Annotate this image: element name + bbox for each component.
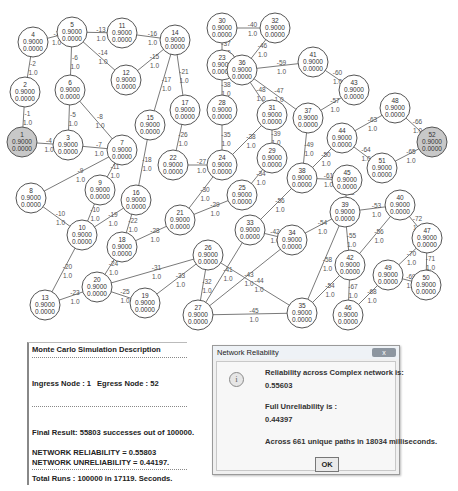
graph-node-30[interactable]: 300.90000.0000	[207, 13, 237, 43]
graph-node-44[interactable]: 440.90000.0000	[327, 123, 357, 153]
graph-node-2[interactable]: 20.90000.0000	[10, 77, 40, 107]
node-sublabel: 0.0000	[58, 148, 78, 155]
edge-id-label: -53	[372, 202, 382, 209]
graph-node-1[interactable]: 10.90000.0000	[7, 127, 37, 157]
graph-node-11[interactable]: 110.90000.0000	[107, 18, 137, 48]
node-sublabel: 0.0000	[344, 93, 364, 100]
dialog-titlebar[interactable]: Network Reliability x	[213, 346, 399, 359]
graph-node-33[interactable]: 330.90000.0000	[235, 215, 265, 245]
graph-node-29[interactable]: 290.90000.0000	[257, 143, 287, 173]
node-sublabel: 0.0000	[135, 306, 155, 313]
network-unreliability: NETWORK UNRELIABILITY = 0.44197.	[32, 458, 169, 467]
graph-node-5[interactable]: 50.90000.0000	[57, 17, 87, 47]
graph-node-48[interactable]: 480.90000.0000	[380, 93, 410, 123]
graph-node-20[interactable]: 200.90000.0000	[82, 272, 112, 302]
node-id: 45	[343, 169, 351, 176]
node-reliability: 0.9000	[372, 164, 392, 171]
node-id: 16	[132, 189, 140, 196]
graph-node-47[interactable]: 470.90000.0000	[412, 223, 442, 253]
node-sublabel: 0.0000	[212, 31, 232, 38]
graph-node-39[interactable]: 390.90000.0000	[330, 197, 360, 227]
total-runs: Total Runs : 100000 in 17119. Seconds.	[32, 474, 172, 483]
graph-node-21[interactable]: 210.90000.0000	[165, 205, 195, 235]
graph-node-17[interactable]: 170.90000.0000	[170, 95, 200, 125]
edge-id-label: -18	[142, 156, 152, 163]
graph-node-31[interactable]: 310.90000.0000	[257, 100, 287, 130]
edge-weight-label: 1.0	[347, 241, 356, 248]
edge-weight-label: 1.0	[210, 210, 219, 217]
graph-node-15[interactable]: 150.90000.0000	[135, 110, 165, 140]
graph-node-25[interactable]: 250.90000.0000	[227, 180, 257, 210]
node-sublabel: 0.0000	[417, 241, 437, 248]
edge-weight-label: 1.0	[152, 273, 161, 280]
graph-node-35[interactable]: 350.90000.0000	[287, 298, 317, 328]
edge-weight-label: 1.0	[221, 140, 230, 147]
graph-node-13[interactable]: 130.90000.0000	[30, 290, 60, 320]
graph-node-6[interactable]: 60.90000.0000	[55, 75, 85, 105]
graph-node-14[interactable]: 140.90000.0000	[160, 25, 190, 55]
graph-node-36[interactable]: 360.90000.0000	[227, 55, 257, 85]
edge-id-label: -54	[325, 282, 335, 289]
edge-id-label: -20	[63, 263, 73, 270]
graph-node-42[interactable]: 420.90000.0000	[335, 250, 365, 280]
graph-node-19[interactable]: 190.90000.0000	[130, 288, 160, 318]
ok-button[interactable]: OK	[315, 457, 339, 472]
graph-node-52[interactable]: 520.90000.0000	[417, 127, 447, 157]
graph-node-28[interactable]: 280.90000.0000	[207, 95, 237, 125]
edge-id-label: -56	[275, 197, 285, 204]
edge-weight-label: 1.0	[202, 287, 211, 294]
paths-summary: Across 661 unique paths in 18034 millise…	[265, 437, 437, 446]
node-id: 47	[423, 227, 431, 234]
graph-node-37[interactable]: 370.90000.0000	[293, 103, 323, 133]
node-id: 44	[338, 127, 346, 134]
graph-node-43[interactable]: 430.90000.0000	[339, 75, 369, 105]
graph-node-8[interactable]: 80.90000.0000	[16, 183, 46, 213]
graph-node-40[interactable]: 400.90000.0000	[385, 190, 415, 220]
node-reliability: 0.9000	[12, 138, 32, 145]
edge-weight-label: 1.0	[63, 272, 72, 279]
graph-node-27[interactable]: 270.90000.0000	[183, 300, 213, 330]
node-reliability: 0.9000	[292, 309, 312, 316]
graph-node-46[interactable]: 460.90000.0000	[333, 300, 363, 330]
graph-node-9[interactable]: 90.90000.0000	[85, 175, 115, 205]
graph-node-18[interactable]: 180.90000.0000	[107, 232, 137, 262]
edge-id-label: -10	[90, 206, 100, 213]
graph-node-4[interactable]: 40.90000.0000	[18, 27, 48, 57]
edge-id-label: -23	[70, 289, 80, 296]
graph-node-3[interactable]: 30.90000.0000	[53, 130, 83, 160]
edge-weight-label: 1.0	[426, 264, 435, 271]
node-id: 12	[122, 69, 130, 76]
node-sublabel: 0.0000	[163, 168, 183, 175]
graph-node-10[interactable]: 100.90000.0000	[67, 220, 97, 250]
graph-node-41[interactable]: 410.90000.0000	[298, 47, 328, 77]
graph-node-12[interactable]: 120.90000.0000	[111, 65, 141, 95]
edge-id-label: -35	[221, 131, 231, 138]
node-id: 43	[350, 79, 358, 86]
edge-id-label: -65	[406, 148, 416, 155]
graph-node-26[interactable]: 260.90000.0000	[193, 240, 223, 270]
graph-node-50[interactable]: 500.90000.0000	[411, 270, 441, 300]
edge-weight-label: 1.0	[249, 316, 258, 323]
node-id: 15	[146, 114, 154, 121]
node-reliability: 0.9000	[165, 36, 185, 43]
graph-node-38[interactable]: 380.90000.0000	[287, 163, 317, 193]
edge-weight-label: 1.0	[200, 195, 209, 202]
edge-id-label: -16	[148, 30, 158, 37]
edge-id-label: -58	[323, 256, 333, 263]
close-button[interactable]: x	[372, 348, 396, 357]
edge-weight-label: 1.0	[23, 119, 32, 126]
graph-node-24[interactable]: 240.90000.0000	[207, 150, 237, 180]
graph-node-7[interactable]: 70.90000.0000	[107, 135, 137, 165]
network-graph: -11.0-41.0-21.0-31.0-61.0-131.0-141.0-51…	[0, 0, 458, 335]
graph-node-49[interactable]: 490.90000.0000	[373, 260, 403, 290]
graph-node-51[interactable]: 510.90000.0000	[367, 153, 397, 183]
graph-node-34[interactable]: 340.90000.0000	[277, 225, 307, 255]
edge-weight-label: 1.0	[95, 122, 104, 129]
graph-node-22[interactable]: 220.90000.0000	[158, 150, 188, 180]
edge-weight-label: 1.0	[318, 228, 327, 235]
graph-node-32[interactable]: 320.90000.0000	[260, 13, 290, 43]
graph-node-16[interactable]: 160.90000.0000	[121, 185, 151, 215]
ingress-node-label: Ingress Node : 1	[32, 379, 91, 388]
graph-node-45[interactable]: 450.90000.0000	[332, 165, 362, 195]
edge-id-label: -54	[318, 219, 328, 226]
